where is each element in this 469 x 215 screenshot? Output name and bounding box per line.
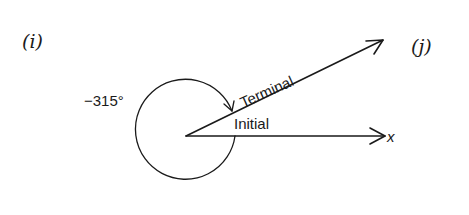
- terminal-label: Terminal: [237, 72, 296, 111]
- angle-diagram: (i) (j) −315° x Terminal Initial: [0, 0, 469, 215]
- x-axis-label: x: [386, 128, 395, 145]
- panel-label-j: (j): [411, 35, 432, 57]
- initial-label: Initial: [234, 115, 269, 132]
- rotation-arc: [135, 79, 235, 179]
- angle-label: −315°: [84, 92, 124, 109]
- panel-label-i: (i): [22, 30, 43, 52]
- initial-side-ray: [186, 128, 385, 144]
